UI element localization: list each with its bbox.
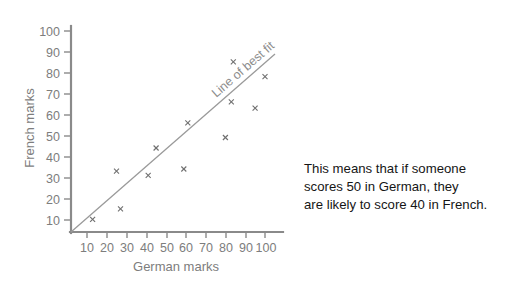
x-tick-label: 60 bbox=[179, 241, 193, 255]
data-point-marker bbox=[118, 206, 123, 211]
data-point-marker bbox=[263, 74, 268, 79]
x-tick-label: 10 bbox=[80, 241, 94, 255]
x-tick-label: 20 bbox=[100, 241, 114, 255]
y-tick-label: 10 bbox=[46, 214, 60, 228]
line-of-best-fit-label: Line of best fit bbox=[209, 38, 277, 100]
data-point-marker bbox=[114, 169, 119, 174]
y-tick-label: 50 bbox=[46, 130, 60, 144]
y-axis-ticks: 100 90 80 70 60 50 40 30 20 10 bbox=[39, 25, 71, 228]
x-tick-label: 100 bbox=[256, 241, 277, 255]
x-axis-title: German marks bbox=[133, 259, 219, 274]
x-tick-label: 80 bbox=[219, 241, 233, 255]
scatter-chart-figure: 100 90 80 70 60 50 40 30 20 10 10 20 30 bbox=[0, 0, 514, 284]
note-line-2: scores 50 in German, they bbox=[304, 178, 510, 196]
x-tick-label: 70 bbox=[199, 241, 213, 255]
data-point-marker bbox=[253, 106, 258, 111]
note-line-3: are likely to score 40 in French. bbox=[304, 196, 510, 214]
data-point-marker bbox=[146, 173, 151, 178]
data-point-marker bbox=[181, 167, 186, 172]
y-tick-label: 60 bbox=[46, 109, 60, 123]
x-tick-label: 50 bbox=[160, 241, 174, 255]
chart-canvas: 100 90 80 70 60 50 40 30 20 10 10 20 30 bbox=[0, 0, 514, 284]
note-line-1: This means that if someone bbox=[304, 160, 510, 178]
y-tick-label: 70 bbox=[46, 88, 60, 102]
data-point-marker bbox=[231, 59, 236, 64]
x-tick-label: 90 bbox=[239, 241, 253, 255]
interpretation-note: This means that if someone scores 50 in … bbox=[304, 160, 510, 215]
x-tick-label: 40 bbox=[140, 241, 154, 255]
y-tick-label: 30 bbox=[46, 172, 60, 186]
y-tick-label: 90 bbox=[46, 46, 60, 60]
y-tick-label: 80 bbox=[46, 67, 60, 81]
data-point-marker bbox=[90, 217, 95, 222]
x-axis-ticks: 10 20 30 40 50 60 70 80 90 100 bbox=[80, 232, 276, 255]
data-point-marker bbox=[185, 120, 190, 125]
y-tick-label: 20 bbox=[46, 193, 60, 207]
data-point-marker bbox=[229, 99, 234, 104]
data-point-marker bbox=[223, 135, 228, 140]
line-of-best-fit bbox=[71, 54, 275, 232]
y-axis-title: French marks bbox=[22, 88, 37, 168]
y-tick-label: 100 bbox=[39, 25, 60, 39]
data-point-marker bbox=[154, 146, 159, 151]
x-tick-label: 30 bbox=[120, 241, 134, 255]
y-tick-label: 40 bbox=[46, 151, 60, 165]
